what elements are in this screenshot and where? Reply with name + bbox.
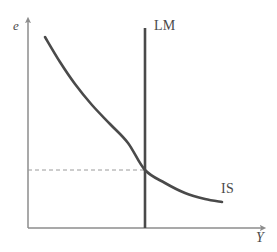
plot-area: [0, 0, 277, 252]
is-curve: [45, 37, 222, 202]
x-axis-label: Y: [256, 231, 264, 245]
y-axis-label: e: [13, 19, 19, 32]
is-curve-label: IS: [221, 182, 234, 196]
is-lm-diagram: e Y LM IS: [0, 0, 277, 252]
lm-curve-label: LM: [154, 19, 176, 33]
